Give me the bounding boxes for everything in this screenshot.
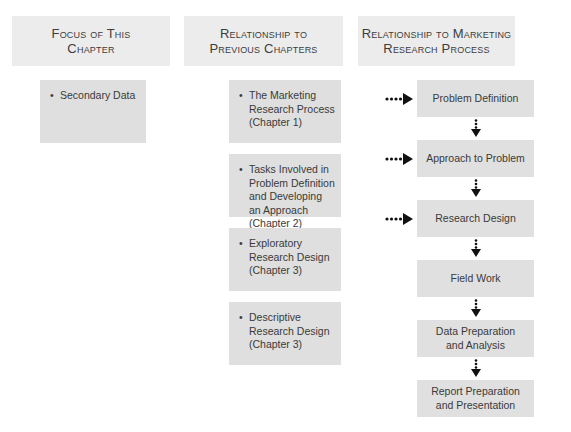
header-process-line1: Relationship to Marketing xyxy=(362,26,512,41)
previous-chapter-box-1: The Marketing Research Process (Chapter … xyxy=(229,80,341,143)
header-process-line2: Research Process xyxy=(362,41,512,56)
focus-item: Secondary Data xyxy=(50,89,140,103)
process-step-label: Report Preparation xyxy=(431,385,520,399)
header-previous-line2: Previous Chapters xyxy=(209,41,317,56)
process-step-label: Problem Definition xyxy=(433,92,519,106)
process-step-research-design: Research Design xyxy=(417,200,534,237)
previous-chapter-item: The Marketing Research Process (Chapter … xyxy=(239,89,335,130)
header-focus: Focus of This Chapter xyxy=(12,16,170,66)
previous-chapter-item: Descriptive Research Design (Chapter 3) xyxy=(239,311,335,352)
process-step-label-2: and Analysis xyxy=(436,339,515,353)
dotted-arrow-down-icon xyxy=(470,299,482,317)
dotted-arrow-right-icon xyxy=(385,153,415,165)
process-step-label: Data Preparation xyxy=(436,325,515,339)
process-step-report: Report Preparationand Presentation xyxy=(417,380,534,417)
dotted-arrow-down-icon xyxy=(470,239,482,257)
dotted-arrow-down-icon xyxy=(470,179,482,197)
process-step-label: Research Design xyxy=(435,212,516,226)
header-research-process: Relationship to Marketing Research Proce… xyxy=(358,16,515,66)
focus-box: Secondary Data xyxy=(40,80,146,143)
process-step-data-preparation: Data Preparationand Analysis xyxy=(417,320,534,357)
dotted-arrow-right-icon xyxy=(385,93,415,105)
previous-chapter-item: Exploratory Research Design (Chapter 3) xyxy=(239,237,335,278)
process-step-problem-definition: Problem Definition xyxy=(417,80,534,117)
previous-chapter-box-4: Descriptive Research Design (Chapter 3) xyxy=(229,302,341,365)
previous-chapter-box-2: Tasks Involved in Problem Definition and… xyxy=(229,154,341,217)
previous-chapter-item: Tasks Involved in Problem Definition and… xyxy=(239,163,335,231)
process-step-label-2: and Presentation xyxy=(431,399,520,413)
header-previous-line1: Relationship to xyxy=(209,26,317,41)
dotted-arrow-down-icon xyxy=(470,359,482,377)
process-step-label: Approach to Problem xyxy=(426,152,525,166)
header-focus-line1: Focus of This xyxy=(52,26,131,41)
dotted-arrow-right-icon xyxy=(385,213,415,225)
process-step-label: Field Work xyxy=(451,272,501,286)
dotted-arrow-down-icon xyxy=(470,119,482,137)
process-step-field-work: Field Work xyxy=(417,260,534,297)
previous-chapter-box-3: Exploratory Research Design (Chapter 3) xyxy=(229,228,341,291)
header-focus-line2: Chapter xyxy=(52,41,131,56)
header-previous-chapters: Relationship to Previous Chapters xyxy=(184,16,343,66)
process-step-approach: Approach to Problem xyxy=(417,140,534,177)
